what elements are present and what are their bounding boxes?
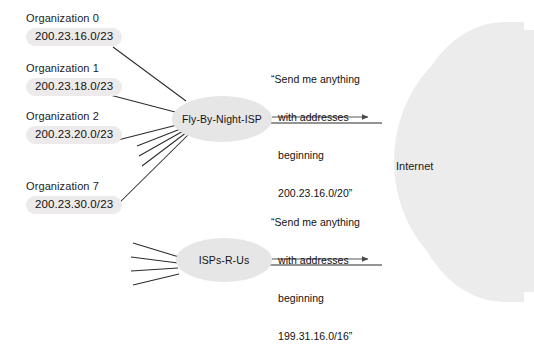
announcement-1-line-2: with addresses — [271, 111, 360, 124]
announcement-isps-r-us: “Send me anything with addresses beginni… — [271, 191, 360, 344]
announcement-2-line-3: beginning — [271, 292, 360, 305]
organization-1-prefix: 200.23.18.0/23 — [26, 78, 122, 96]
provider-fly-by-night-isp-label: Fly-By-Night-ISP — [182, 113, 262, 125]
organization-1-name: Organization 1 — [26, 62, 122, 75]
announcement-1-line-1: “Send me anything — [271, 73, 360, 86]
provider-isps-r-us-label: ISPs-R-Us — [199, 254, 249, 266]
announcement-2-line-1: “Send me anything — [271, 216, 360, 229]
organization-0: Organization 0 200.23.16.0/23 — [26, 12, 122, 46]
organization-7-name-alt: Organization 7 — [26, 180, 122, 193]
organization-7: Organization 7 200.23.30.0/23 — [26, 180, 122, 214]
organization-0-name: Organization 0 — [26, 12, 122, 25]
organization-1: Organization 1 200.23.18.0/23 — [26, 62, 122, 96]
organization-2-prefix: 200.23.20.0/23 — [26, 126, 122, 144]
announcement-1-line-3: beginning — [271, 149, 360, 162]
announcement-2-line-4: 199.31.16.0/16” — [271, 330, 360, 343]
provider-isps-r-us: ISPs-R-Us — [176, 238, 272, 282]
announcement-2-line-2: with addresses — [271, 254, 360, 267]
organization-2: Organization 2 200.23.20.0/23 — [26, 110, 122, 144]
organization-0-prefix: 200.23.16.0/23 — [26, 28, 122, 46]
organization-7-prefix: 200.23.30.0/23 — [26, 196, 122, 214]
provider-fly-by-night-isp: Fly-By-Night-ISP — [172, 96, 272, 142]
organization-2-name: Organization 2 — [26, 110, 122, 123]
